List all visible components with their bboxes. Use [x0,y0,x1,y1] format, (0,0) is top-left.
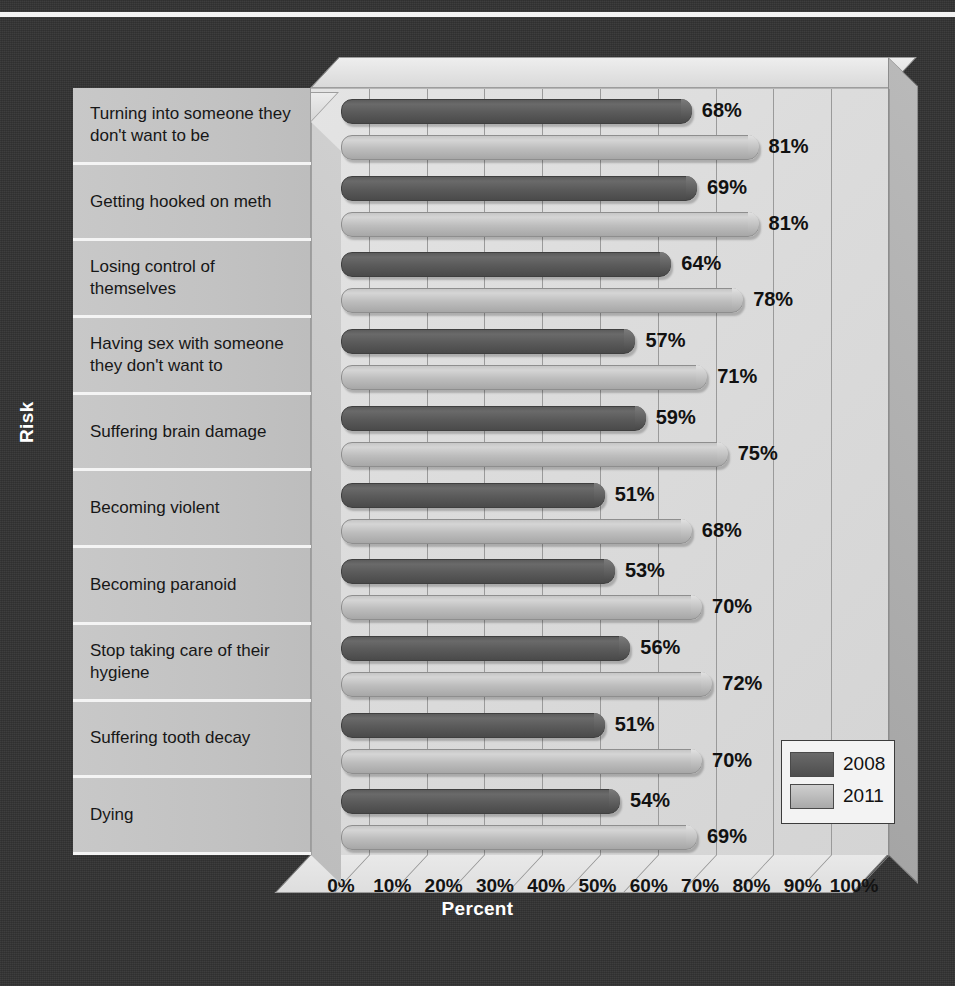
bar-end-cap [691,749,702,772]
bar-end-cap [691,595,702,618]
bar-value-label: 70% [712,595,752,618]
bar-end-cap [686,176,697,199]
bar-value-label: 68% [702,99,742,122]
bar-end-cap [594,713,605,736]
bar-end-cap [686,825,697,848]
bar-2011 [341,365,707,390]
bar-value-label: 71% [717,365,757,388]
bar-2008 [341,176,697,201]
bar-2011 [341,595,702,620]
bar-value-label: 64% [681,252,721,275]
chart-title [0,0,955,12]
legend-swatch-2011-icon [790,784,834,809]
bar-value-label: 57% [645,329,685,352]
bar-end-cap [748,212,759,235]
bar-value-label: 53% [625,559,665,582]
bar-2008 [341,559,615,584]
bar-2008 [341,483,605,508]
bar-value-label: 69% [707,176,747,199]
bar-2011 [341,825,697,850]
bar-2011 [341,288,743,313]
legend-item-2008: 2008 [790,748,886,780]
legend: 2008 2011 [781,740,895,824]
bar-end-cap [594,483,605,506]
bar-value-label: 59% [656,406,696,429]
bar-value-label: 68% [702,519,742,542]
legend-label-2011: 2011 [843,785,884,807]
bar-value-label: 81% [769,135,809,158]
bar-end-cap [681,519,692,542]
bar-value-label: 70% [712,749,752,772]
bar-end-cap [681,99,692,122]
legend-swatch-2008-icon [790,752,834,777]
bar-2008 [341,406,646,431]
bar-2008 [341,636,630,661]
bar-end-cap [701,672,712,695]
bar-2008 [341,252,671,277]
bar-value-label: 78% [753,288,793,311]
bar-value-label: 51% [615,483,655,506]
bar-2011 [341,749,702,774]
bar-value-label: 69% [707,825,747,848]
legend-label-2008: 2008 [843,753,885,775]
bar-end-cap [635,406,646,429]
bar-value-label: 51% [615,713,655,736]
chart-screenshot: Risk Percent Turning into someone they d… [0,0,955,986]
legend-item-2011: 2011 [790,780,886,812]
chart-3d-body: Turning into someone they don't want to … [0,20,955,900]
bar-2008 [341,789,620,814]
bar-2011 [341,442,728,467]
bar-2011 [341,212,759,237]
bar-end-cap [604,559,615,582]
title-divider-rule [0,12,955,17]
bar-2008 [341,99,692,124]
bar-end-cap [732,288,743,311]
bar-end-cap [717,442,728,465]
bar-2011 [341,672,712,697]
bar-end-cap [624,329,635,352]
bar-end-cap [748,135,759,158]
bar-2008 [341,329,635,354]
bar-value-label: 54% [630,789,670,812]
bar-2011 [341,519,692,544]
bar-2011 [341,135,759,160]
bar-end-cap [696,365,707,388]
bar-end-cap [660,252,671,275]
bar-end-cap [609,789,620,812]
bar-end-cap [619,636,630,659]
bar-value-label: 75% [738,442,778,465]
bar-value-label: 56% [640,636,680,659]
bar-2008 [341,713,605,738]
bar-value-label: 72% [722,672,762,695]
bar-value-label: 81% [769,212,809,235]
